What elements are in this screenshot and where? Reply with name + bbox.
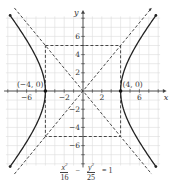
y-tick-label: −2 [69, 105, 80, 114]
vertex-point [44, 89, 48, 93]
x-tick-label: −2 [59, 93, 70, 102]
equation-term-y: y2 25 [87, 160, 95, 182]
minus-sign: − [75, 166, 80, 175]
y-exp: 2 [92, 162, 95, 167]
y-tick-label: −4 [69, 123, 80, 132]
vertex-label: (4, 0) [123, 80, 143, 89]
x-tick-label: 6 [137, 93, 142, 102]
equals-one: = 1 [102, 166, 113, 175]
y-tick-label: −6 [69, 141, 80, 150]
y-tick-label: 2 [75, 68, 80, 77]
x-exp: 2 [65, 162, 68, 167]
y-tick-label: 4 [75, 50, 80, 59]
arrow-icon [154, 14, 157, 17]
y-denominator: 25 [87, 173, 95, 182]
x-tick-label: 2 [99, 93, 104, 102]
equation: x2 16 − y2 25 = 1 [0, 160, 174, 182]
y-tick-label: 6 [75, 32, 80, 41]
x-tick-label: −6 [21, 93, 32, 102]
equation-term-x: x2 16 [60, 160, 68, 182]
vertex-label: (−4, 0) [17, 80, 44, 89]
x-denominator: 16 [60, 173, 68, 182]
hyperbola-diagram: xy −6−226642−2−4−6 (−4, 0)(4, 0) x2 16 −… [0, 0, 174, 188]
x-axis-label: x [164, 93, 169, 102]
arrow-icon [9, 14, 12, 17]
y-axis-label: y [73, 8, 79, 17]
vertex-point [119, 89, 123, 93]
y-axis-arrow-icon [81, 10, 85, 14]
